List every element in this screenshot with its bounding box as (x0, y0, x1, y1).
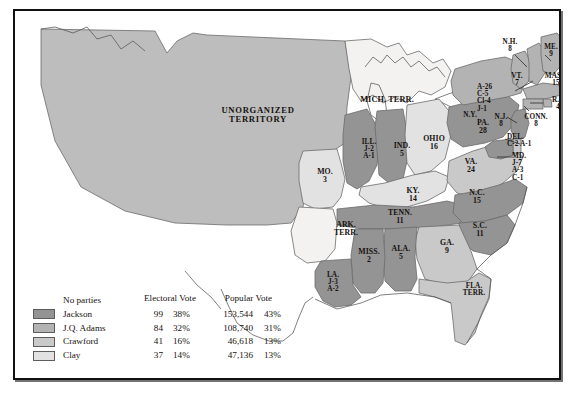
legend-header-row: No parties Electoral Vote Popular Vote (33, 293, 294, 306)
state-delaware (513, 139, 521, 153)
legend-electoral-vote-clay: 37 (137, 347, 173, 361)
legend-electoral-pct-adams: 32% (173, 319, 203, 333)
state-arkansas-territory (291, 207, 337, 263)
legend-header-swatch-spacer (33, 293, 62, 306)
legend-swatch-clay-cell (33, 347, 62, 361)
legend-row-crawford[interactable]: Crawford 41 16% 46,618 13% (33, 333, 294, 347)
legend-note: No parties (62, 293, 137, 306)
state-indiana (375, 109, 407, 183)
legend-header-popular: Popular Vote (203, 293, 294, 306)
legend-popular-vote-adams: 108,740 (203, 319, 264, 333)
legend-swatch-adams (33, 323, 55, 333)
legend-popular-vote-clay: 47,136 (203, 347, 264, 361)
legend-row-clay[interactable]: Clay 37 14% 47,136 13% (33, 347, 294, 361)
legend-electoral-pct-clay: 14% (173, 347, 203, 361)
legend-electoral-pct-crawford: 16% (173, 333, 203, 347)
legend-popular-pct-adams: 31% (264, 319, 294, 333)
state-illinois (343, 109, 379, 189)
legend-candidate-jackson: Jackson (62, 306, 137, 320)
legend-swatch-jackson-cell (33, 306, 62, 320)
legend-row-jackson[interactable]: Jackson 99 38% 153,544 43% (33, 306, 294, 320)
legend-popular-pct-clay: 13% (264, 347, 294, 361)
legend-swatch-adams-cell (33, 319, 62, 333)
legend-candidate-clay: Clay (62, 347, 137, 361)
legend-candidate-crawford: Crawford (62, 333, 137, 347)
legend-swatch-clay (33, 351, 55, 361)
legend-header-electoral: Electoral Vote (137, 293, 203, 306)
legend-popular-vote-jackson: 153,544 (203, 306, 264, 320)
state-alabama (383, 227, 417, 291)
legend-popular-vote-crawford: 46,618 (203, 333, 264, 347)
legend-electoral-vote-crawford: 41 (137, 333, 173, 347)
state-connecticut (523, 99, 543, 109)
legend-swatch-crawford (33, 337, 55, 347)
legend-candidate-adams: J.Q. Adams (62, 319, 137, 333)
state-massachusetts (523, 83, 559, 99)
state-florida-territory (419, 273, 491, 345)
state-mississippi (351, 229, 385, 293)
map-frame: .st{stroke:#6b6b6b;stroke-width:.8;} .jk… (13, 9, 561, 380)
legend-electoral-pct-jackson: 38% (173, 306, 203, 320)
state-maine (541, 33, 559, 75)
state-new-jersey (511, 109, 529, 141)
legend-electoral-vote-adams: 84 (137, 319, 173, 333)
map-legend: No parties Electoral Vote Popular Vote (33, 293, 305, 361)
legend-electoral-vote-jackson: 99 (137, 306, 173, 320)
state-missouri (299, 149, 345, 209)
legend-table: No parties Electoral Vote Popular Vote (33, 293, 294, 361)
legend-row-adams[interactable]: J.Q. Adams 84 32% 108,740 31% (33, 319, 294, 333)
legend-popular-pct-crawford: 13% (264, 333, 294, 347)
map-stage: .st{stroke:#6b6b6b;stroke-width:.8;} .jk… (15, 11, 559, 378)
legend-swatch-crawford-cell (33, 333, 62, 347)
legend-popular-pct-jackson: 43% (264, 306, 294, 320)
region-michigan-territory (345, 39, 451, 103)
state-ohio (405, 99, 451, 175)
state-rhode-island (543, 99, 552, 107)
legend-swatch-jackson (33, 309, 55, 319)
